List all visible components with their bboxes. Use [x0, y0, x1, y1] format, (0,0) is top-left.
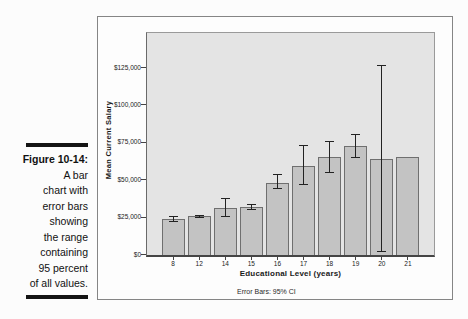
error-bar-cap-top: [169, 216, 178, 217]
plot-area: [146, 32, 435, 257]
bar: [266, 183, 289, 255]
y-tick-mark: [141, 254, 146, 255]
error-bar-cap-bottom: [351, 157, 360, 158]
y-tick-label: $125,000: [98, 64, 141, 72]
error-bar-line: [381, 65, 382, 252]
error-bar-cap-top: [273, 174, 282, 175]
error-bar-cap-bottom: [169, 221, 178, 222]
x-tick-label: 20: [372, 260, 392, 268]
bar: [162, 219, 185, 255]
figure-label: Figure 10-14:: [4, 152, 88, 168]
caption-line: of all values.: [4, 276, 88, 292]
figure-caption: Figure 10-14: A bar chart with error bar…: [4, 152, 88, 292]
error-bar-cap-bottom: [195, 217, 204, 218]
x-tick-label: 17: [294, 260, 314, 268]
error-bar-line: [225, 198, 226, 217]
error-bar-cap-top: [351, 134, 360, 135]
x-tick-label: 15: [241, 260, 261, 268]
y-tick-mark: [141, 67, 146, 68]
error-bar-cap-top: [247, 204, 256, 205]
y-tick-label: $100,000: [98, 101, 141, 109]
error-bar-cap-bottom: [247, 209, 256, 210]
x-tick-label: 14: [215, 260, 235, 268]
error-bars-footnote: Error Bars: 95% CI: [237, 288, 296, 295]
y-tick-label: $50,000: [98, 176, 141, 184]
scanned-book-figure: Figure 10-14: A bar chart with error bar…: [0, 0, 468, 319]
x-tick-label: 18: [320, 260, 340, 268]
error-bar-cap-top: [221, 198, 230, 199]
x-axis-title: Educational Level (years): [147, 269, 434, 278]
caption-line: containing: [4, 245, 88, 261]
y-tick-mark: [141, 217, 146, 218]
bar: [240, 207, 263, 255]
y-tick-label: $75,000: [98, 138, 141, 146]
error-bar-cap-top: [325, 141, 334, 142]
y-tick-mark: [141, 142, 146, 143]
x-tick-label: 8: [163, 260, 183, 268]
y-tick-mark: [141, 179, 146, 180]
error-bar-cap-bottom: [377, 251, 386, 252]
error-bar-line: [355, 134, 356, 158]
error-bar-line: [329, 141, 330, 173]
y-tick-label: $0: [98, 251, 141, 259]
error-bar-cap-bottom: [273, 188, 282, 189]
error-bar-line: [303, 145, 304, 185]
caption-line: error bars: [4, 199, 88, 215]
error-bar-cap-top: [195, 215, 204, 216]
caption-line: A bar: [4, 168, 88, 184]
caption-line: showing: [4, 214, 88, 230]
error-bar-cap-bottom: [299, 184, 308, 185]
bar: [344, 146, 367, 255]
caption-top-rule: [26, 143, 88, 147]
bar: [188, 216, 211, 255]
error-bar-cap-bottom: [221, 216, 230, 217]
caption-line: the range: [4, 230, 88, 246]
error-bar-cap-top: [377, 65, 386, 66]
caption-line: chart with: [4, 183, 88, 199]
y-tick-label: $25,000: [98, 213, 141, 221]
caption-line: 95 percent: [4, 261, 88, 277]
error-bar-cap-top: [299, 145, 308, 146]
x-tick-label: 21: [398, 260, 418, 268]
error-bar-line: [277, 174, 278, 189]
error-bar-cap-bottom: [325, 172, 334, 173]
y-tick-mark: [141, 104, 146, 105]
x-tick-label: 19: [346, 260, 366, 268]
x-tick-label: 16: [267, 260, 287, 268]
caption-bottom-rule: [26, 295, 88, 299]
bar: [396, 157, 419, 255]
x-tick-label: 12: [189, 260, 209, 268]
